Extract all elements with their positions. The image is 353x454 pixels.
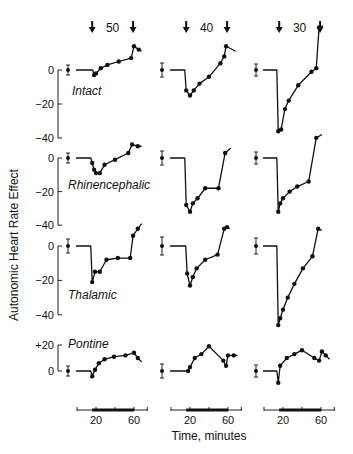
row-label: Pontine bbox=[68, 337, 109, 351]
data-point bbox=[203, 258, 207, 262]
x-tick-label: 20 bbox=[184, 414, 196, 426]
control-error-bar bbox=[66, 366, 70, 376]
control-error-bar bbox=[160, 63, 164, 77]
data-point bbox=[199, 352, 203, 356]
data-point bbox=[99, 66, 103, 70]
data-point bbox=[316, 227, 320, 231]
x-tick-label: 60 bbox=[222, 414, 234, 426]
column-header: 40 bbox=[200, 21, 214, 35]
stimulus-arrow-icon bbox=[224, 21, 231, 33]
data-point bbox=[90, 280, 94, 284]
x-axis-40: 2060 bbox=[171, 407, 241, 426]
y-tick-label: 0 bbox=[48, 365, 54, 377]
stimulus-arrow-icon bbox=[183, 21, 190, 33]
y-tick-label: −20 bbox=[35, 186, 54, 198]
stimulus-arrow-icon bbox=[276, 21, 283, 33]
y-axis-label: Autonomic Heart Rate Effect bbox=[7, 168, 21, 321]
series-thalamic-50 bbox=[76, 224, 142, 285]
data-point bbox=[185, 271, 189, 275]
y-tick-label: +20 bbox=[35, 339, 54, 351]
data-point bbox=[314, 136, 318, 140]
x-axes: 206020602060 bbox=[77, 407, 334, 426]
column-header: 30 bbox=[293, 21, 307, 35]
data-point bbox=[222, 54, 226, 58]
data-point bbox=[128, 256, 132, 260]
column-header: 50 bbox=[106, 21, 120, 35]
series-intact-50 bbox=[76, 44, 142, 77]
data-point bbox=[232, 353, 236, 357]
data-point bbox=[312, 356, 316, 360]
data-point bbox=[93, 270, 97, 274]
data-point bbox=[224, 364, 228, 368]
data-point bbox=[97, 361, 101, 365]
data-point bbox=[132, 44, 136, 48]
series-pontine-50 bbox=[76, 351, 142, 379]
data-point bbox=[98, 270, 102, 274]
control-error-bar bbox=[66, 239, 70, 253]
x-tick-label: 20 bbox=[277, 414, 289, 426]
data-point bbox=[193, 356, 197, 360]
data-point bbox=[117, 59, 121, 63]
data-point bbox=[131, 233, 135, 237]
data-point bbox=[93, 368, 97, 372]
x-axis-30: 2060 bbox=[264, 407, 334, 426]
row-labels: IntactRhinencephalicThalamicPontine bbox=[68, 84, 150, 351]
y-axes: 0−20−400−20−400−20−40+200 bbox=[35, 63, 258, 378]
control-error-bar bbox=[254, 365, 258, 377]
data-point bbox=[287, 98, 291, 102]
data-point bbox=[137, 47, 141, 51]
series-pontine-40 bbox=[170, 344, 237, 373]
control-error-bar bbox=[160, 237, 164, 255]
data-point bbox=[90, 374, 94, 378]
data-point bbox=[296, 83, 300, 87]
data-point bbox=[207, 75, 211, 79]
data-point bbox=[317, 358, 321, 362]
data-point bbox=[226, 353, 230, 357]
series bbox=[76, 25, 329, 385]
data-point bbox=[186, 369, 190, 373]
y-tick-label: 0 bbox=[48, 152, 54, 164]
data-point bbox=[136, 144, 140, 148]
data-point bbox=[123, 353, 127, 357]
x-axis-50: 2060 bbox=[77, 407, 147, 426]
x-tick-label: 60 bbox=[128, 414, 140, 426]
series-thalamic-30 bbox=[263, 227, 322, 328]
data-point bbox=[281, 196, 285, 200]
control-error-bar bbox=[66, 153, 70, 163]
data-point bbox=[314, 66, 318, 70]
data-point bbox=[320, 349, 324, 353]
y-axis-rhinencephalic: 0−20−40 bbox=[35, 152, 62, 231]
control-error-bar bbox=[160, 151, 164, 165]
data-point bbox=[224, 44, 228, 48]
series-rhinencephalic-50 bbox=[76, 142, 142, 175]
data-point bbox=[102, 163, 106, 167]
data-point bbox=[225, 225, 229, 229]
data-point bbox=[116, 256, 120, 260]
series-rhinencephalic-30 bbox=[263, 134, 322, 213]
data-point bbox=[94, 171, 98, 175]
data-point bbox=[276, 210, 280, 214]
data-point bbox=[188, 365, 192, 369]
y-tick-label: −40 bbox=[35, 219, 54, 231]
y-axis-thalamic: 0−20−40 bbox=[35, 240, 62, 321]
data-point bbox=[278, 364, 282, 368]
data-point bbox=[300, 348, 304, 352]
control-error-bar bbox=[160, 364, 164, 378]
data-point bbox=[279, 127, 283, 131]
series-intact-40 bbox=[170, 44, 236, 98]
control-error-bar bbox=[254, 152, 258, 164]
data-point bbox=[281, 307, 285, 311]
row-label: Thalamic bbox=[68, 288, 117, 302]
y-axis-pontine: +200 bbox=[35, 339, 62, 377]
y-axis-intact: 0−20−40 bbox=[35, 64, 62, 144]
data-point bbox=[194, 266, 198, 270]
data-point bbox=[203, 186, 207, 190]
data-point bbox=[309, 70, 313, 74]
control-error-bar bbox=[254, 238, 258, 254]
figure: 504030 0−20−400−20−400−20−40+200 IntactR… bbox=[0, 0, 353, 454]
data-point bbox=[215, 252, 219, 256]
data-point bbox=[276, 381, 280, 385]
stimulus-arrow-icon bbox=[130, 21, 137, 33]
y-tick-label: −40 bbox=[35, 132, 54, 144]
y-tick-label: −20 bbox=[35, 274, 54, 286]
